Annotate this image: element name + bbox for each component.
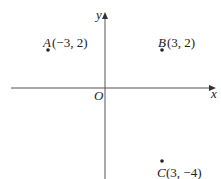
point-b-name: B	[158, 35, 166, 50]
point-a-name: A	[42, 35, 51, 50]
point-c	[160, 159, 164, 163]
point-c-coords: (3, −4)	[166, 165, 202, 179]
y-axis-label: y	[94, 7, 102, 22]
point-b-coords: (3, 2)	[167, 35, 195, 50]
x-axis-label: x	[210, 86, 217, 101]
coordinate-plane: x y O A (−3, 2) B (3, 2) C (3, −4)	[0, 0, 221, 179]
y-axis-arrow-icon	[102, 12, 108, 19]
point-a-coords: (−3, 2)	[52, 35, 88, 50]
point-c-name: C	[157, 165, 166, 179]
origin-label: O	[94, 88, 104, 103]
